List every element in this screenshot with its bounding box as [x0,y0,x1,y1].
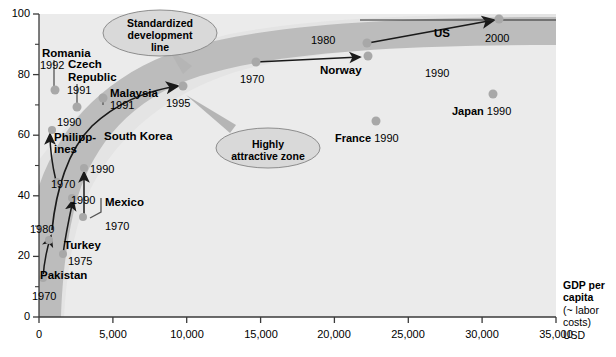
x-tick-label-30000: 30,000 [454,328,510,340]
label-france-year: 1990 [374,132,398,144]
x-axis-caption: GDP per capita (~ labor costs) USD [563,279,605,341]
y-tick-label-40: 40 [0,189,30,201]
label-turkey-year-1975: 1975 [68,256,92,268]
label-philippines-line2: ines [54,143,77,155]
label-philippines-line1: Philipp- [54,131,96,143]
callout-standardized-line2: development [110,30,210,42]
point-norway-1990 [364,52,373,61]
x-tick-label-0: 0 [19,328,59,340]
label-us-year-2000: 2000 [485,33,509,45]
label-pakistan-year-1970: 1970 [32,291,56,303]
callout-standardized-line1: Standardized [110,18,210,30]
label-czech-line1: Czech [68,58,102,70]
label-us: US [434,27,450,39]
x-tick-label-20000: 20,000 [306,328,362,340]
label-philippines-year-1990: 1990 [57,117,81,129]
label-norway-year-1990: 1990 [425,68,449,80]
x-axis-caption-line5: USD [563,329,605,341]
label-japan-group: Japan 1990 [452,106,511,118]
label-mexico-year-1970: 1970 [105,221,129,233]
y-tick-label-20: 20 [0,249,30,261]
x-axis-ticks [39,317,556,323]
callout-standardized-line3: line [110,42,210,54]
label-japan: Japan [452,105,484,117]
label-south-korea-year: 1995 [166,98,190,110]
label-philippines-year-1970: 1970 [51,179,75,191]
label-pakistan: Pakistan [40,269,87,281]
label-japan-year: 1990 [487,105,511,117]
label-pakistan-year-1980: 1980 [30,224,54,236]
label-malaysia-year: 1991 [110,100,134,112]
label-mexico-year-1990: 1990 [90,164,114,176]
label-norway: Norway [320,64,362,76]
x-axis-caption-line3: (~ labor [563,304,605,316]
label-france-group: France 1990 [335,133,399,145]
point-mexico-1990 [80,164,88,172]
point-czech-1991 [73,103,82,112]
chart-canvas [0,0,616,357]
y-tick-label-100: 100 [0,7,30,19]
label-south-korea: South Korea [104,130,172,142]
point-turkey-1975 [59,250,67,258]
point-malaysia-1991 [99,94,108,103]
y-tick-label-60: 60 [0,128,30,140]
label-czech-year: 1991 [67,85,91,97]
y-tick-label-80: 80 [0,68,30,80]
chart-container: 100 80 60 40 20 0 0 5,000 10,000 15,000 … [0,0,616,357]
x-tick-label-15000: 15,000 [233,328,289,340]
label-romania-year: 1992 [40,60,64,72]
label-norway-year-1970: 1970 [240,74,264,86]
x-axis-caption-line1: GDP per [563,279,605,291]
point-japan-1990 [489,90,498,99]
x-tick-label-25000: 25,000 [380,328,436,340]
point-norway-1970 [252,58,261,67]
label-turkey-year-1990: 1990 [71,195,95,207]
label-czech-line2: Republic [68,71,117,83]
callout-standardized-development-line: Standardized development line [110,18,210,53]
point-us-1980 [363,39,372,48]
callout-attractive-line1: Highly [216,139,320,151]
point-us-2000 [495,15,504,24]
label-france: France [335,132,371,144]
x-tick-label-10000: 10,000 [159,328,215,340]
point-mexico-1970 [79,213,87,221]
x-axis-caption-line2: capita [563,291,605,303]
label-mexico: Mexico [105,196,144,208]
callout-attractive-line2: attractive zone [216,151,320,163]
point-south-korea-1995 [179,82,188,91]
x-axis-caption-line4: costs) [563,316,605,328]
callout-highly-attractive-zone: Highly attractive zone [216,139,320,163]
label-turkey: Turkey [64,239,101,251]
point-romania-1992 [51,86,60,95]
y-tick-label-0: 0 [0,310,30,322]
label-us-year-1980: 1980 [311,35,335,47]
point-pakistan-1980 [45,236,53,244]
x-tick-label-5000: 5,000 [88,328,138,340]
label-malaysia: Malaysia [110,87,158,99]
point-france-1990 [372,117,381,126]
